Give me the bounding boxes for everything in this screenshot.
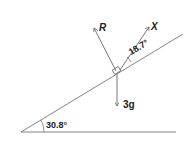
force-r-arrow	[94, 28, 116, 71]
incline-angle-arc	[41, 120, 44, 132]
label-r: R	[99, 23, 106, 33]
force-angle-arc	[127, 57, 131, 62]
incline-line	[21, 34, 183, 132]
label-weight-text: 3g	[123, 99, 135, 110]
label-incline-angle: 30.8°	[46, 121, 67, 130]
label-x: X	[151, 22, 158, 32]
block	[112, 67, 121, 75]
label-weight: 3g	[123, 100, 135, 110]
diagram-canvas	[0, 0, 190, 145]
